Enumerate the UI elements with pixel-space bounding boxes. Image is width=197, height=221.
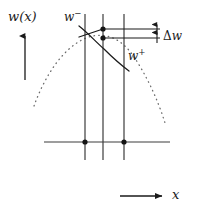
node-base-right xyxy=(121,139,126,144)
node-markers-group xyxy=(82,26,126,144)
level-lines-group xyxy=(101,29,160,38)
node-base-left xyxy=(82,139,87,144)
figure-canvas: w(x) w− w+ Δw x xyxy=(0,0,197,221)
w-plus-base: w xyxy=(128,49,138,63)
w-plus-label: w+ xyxy=(128,48,146,62)
node-upper xyxy=(100,26,105,31)
delta-w-base: w xyxy=(172,29,182,43)
w-minus-label: w− xyxy=(64,9,82,23)
delta-symbol: Δ xyxy=(163,29,172,43)
w-minus-superscript: − xyxy=(74,8,81,18)
x-axis-label: x xyxy=(172,188,179,201)
delta-w-label: Δw xyxy=(163,30,182,42)
solid-descending-curve xyxy=(79,26,129,71)
y-axis-label: w(x) xyxy=(8,10,37,23)
node-lower xyxy=(100,35,105,40)
w-plus-superscript: + xyxy=(138,47,145,57)
w-minus-base: w xyxy=(64,10,74,24)
